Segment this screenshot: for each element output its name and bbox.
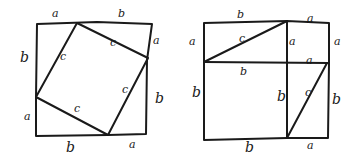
right-diagonal-bottom xyxy=(287,63,327,138)
left-outer-square xyxy=(36,22,152,136)
side-label-b: b xyxy=(20,49,29,65)
side-label-a: a xyxy=(307,12,314,25)
side-label-c: c xyxy=(110,36,116,49)
side-label-a: a xyxy=(307,139,314,152)
side-label-a: a xyxy=(306,54,313,67)
side-label-b: b xyxy=(240,65,247,78)
side-label-b: b xyxy=(66,139,75,155)
side-label-a: a xyxy=(129,138,136,151)
side-label-b: b xyxy=(192,84,201,100)
pythagorean-proof-diagram: abbababacccc baacaaabbbcbba xyxy=(0,0,353,161)
side-label-c: c xyxy=(239,32,245,45)
side-label-b: b xyxy=(155,90,164,106)
side-label-a: a xyxy=(52,7,59,20)
right-diagonal-top xyxy=(204,21,287,62)
right-figure: baacaaabbbcbba xyxy=(189,8,341,155)
side-label-b: b xyxy=(245,139,254,155)
side-label-c: c xyxy=(122,83,128,96)
side-label-a: a xyxy=(334,35,341,48)
side-label-c: c xyxy=(305,86,311,99)
side-label-a: a xyxy=(24,110,31,123)
left-inner-square xyxy=(36,23,148,135)
side-label-b: b xyxy=(332,91,341,107)
side-label-b: b xyxy=(237,8,244,21)
side-label-a: a xyxy=(153,34,160,47)
side-label-a: a xyxy=(289,35,296,48)
side-label-c: c xyxy=(74,102,80,115)
side-label-c: c xyxy=(60,50,66,63)
left-labels: abbababacccc xyxy=(20,7,164,155)
side-label-a: a xyxy=(189,35,196,48)
side-label-b: b xyxy=(118,7,125,20)
side-label-b: b xyxy=(277,88,286,104)
right-outer-square xyxy=(204,21,329,140)
left-figure: abbababacccc xyxy=(20,7,164,155)
